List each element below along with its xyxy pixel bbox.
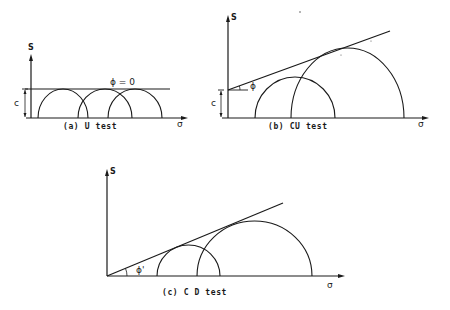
- panel-b-cu-test: [218, 11, 429, 120]
- panel-a-circle-1: [38, 89, 88, 118]
- panel-a-cohesion-label: c: [14, 99, 19, 108]
- panel-b-c-arrow-icon: [220, 113, 223, 117]
- panel-c-angle-arc: [126, 268, 128, 276]
- speck: [370, 40, 371, 41]
- panel-b-circle-2: [291, 48, 404, 118]
- panel-c-x-axis-label: σ: [327, 281, 333, 290]
- panel-a-y-axis-label: S: [28, 44, 34, 52]
- panel-c-y-axis-label: S: [110, 168, 116, 176]
- panel-a-y-arrow-icon: [29, 54, 33, 61]
- panel-b-circle-1: [255, 77, 335, 118]
- panel-b-caption: (b) CU test: [268, 123, 328, 131]
- panel-b-y-axis-label: S: [231, 14, 237, 22]
- panel-c-circle-2: [197, 221, 312, 276]
- panel-c-caption: (c) C D test: [162, 289, 227, 297]
- mohr-circle-diagrams: [0, 0, 450, 310]
- panel-c-y-arrow-icon: [105, 169, 109, 176]
- panel-a-envelope-label: ϕ = 0: [110, 78, 135, 87]
- panel-a-caption: (a) U test: [63, 123, 117, 131]
- panel-b-angle-label: ϕ: [250, 82, 256, 91]
- panel-a-c-arrow-icon: [24, 90, 27, 94]
- panel-b-x-axis-label: σ: [418, 120, 424, 129]
- panel-b-y-arrow-icon: [226, 15, 230, 22]
- panel-b-cohesion-label: c: [211, 99, 216, 108]
- panel-c-circle-1: [157, 245, 220, 276]
- panel-a-circle-2: [78, 89, 132, 118]
- panel-b-c-arrow-icon: [220, 91, 223, 95]
- speck: [299, 11, 300, 12]
- speck: [340, 54, 341, 55]
- panel-a-circle-3: [108, 89, 162, 118]
- panel-c-envelope-line: [107, 203, 283, 276]
- panel-a-u-test: [22, 54, 188, 120]
- panel-a-x-axis-label: σ: [177, 120, 183, 129]
- panel-b-angle-arc: [239, 86, 240, 90]
- panel-c-angle-label: ϕ': [136, 266, 144, 275]
- panel-c-x-arrow-icon: [338, 274, 345, 278]
- panel-a-c-arrow-icon: [24, 113, 27, 117]
- panel-c-cd-test: [105, 169, 345, 278]
